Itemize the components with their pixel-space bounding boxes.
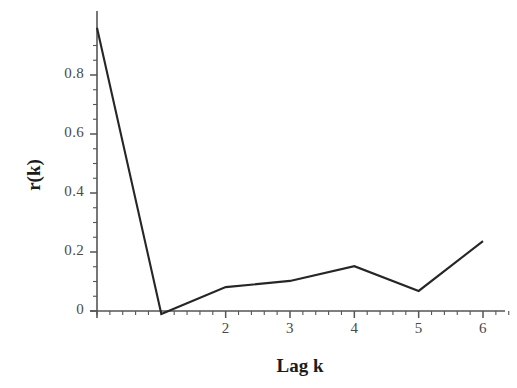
x-tick-label: 2 [206,320,246,337]
data-series-line [97,28,483,314]
x-axis-title: Lag k [277,355,324,376]
y-axis-major-ticks [90,75,97,311]
x-tick-label: 5 [399,320,439,337]
autocorrelation-chart: Lag k r(k) 0.80.60.40.2023456 [0,0,517,388]
y-tick-label: 0.2 [0,242,84,259]
y-tick-label: 0 [0,301,84,318]
x-tick-label: 6 [463,320,503,337]
y-tick-label: 0.6 [0,124,84,141]
y-tick-label: 0.8 [0,65,84,82]
x-tick-label: 4 [334,320,374,337]
y-tick-label: 0.4 [0,183,84,200]
x-tick-label: 3 [270,320,310,337]
